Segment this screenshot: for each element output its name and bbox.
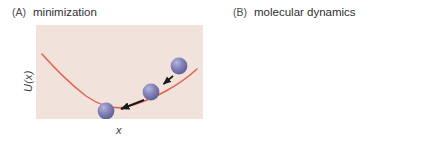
- panel-a-title: minimization: [33, 6, 97, 18]
- ball-minimum-a: [98, 103, 115, 119]
- x-axis-label-a: x: [116, 124, 122, 136]
- arrow-step-1-a: [164, 76, 174, 84]
- figure-root: (A) minimization: [0, 0, 438, 146]
- panel-b-title: molecular dynamics: [254, 6, 356, 18]
- plot-area-minimization: [36, 25, 203, 119]
- panel-a-letter: (A): [12, 6, 26, 18]
- panel-b-letter: (B): [233, 6, 247, 18]
- y-axis-label-a: U(x): [22, 70, 34, 92]
- panel-a-header: (A) minimization: [12, 6, 97, 18]
- ball-start-a: [171, 58, 188, 75]
- panel-b-header: (B) molecular dynamics: [233, 6, 356, 18]
- panel-molecular-dynamics: (B) molecular dynamics: [219, 0, 438, 146]
- ball-intermediate-a: [143, 84, 160, 101]
- panel-minimization: (A) minimization: [0, 0, 219, 146]
- arrow-step-2-a: [121, 100, 144, 109]
- plot-a-graphics: [36, 25, 203, 119]
